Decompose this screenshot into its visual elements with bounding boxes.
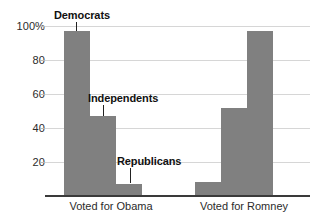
leader-line-republicans [130,168,131,183]
bar-romney-democrats [195,182,221,196]
leader-line-democrats [76,22,77,31]
leader-line-independents [103,105,104,116]
x-axis-baseline [45,195,310,197]
annotation-independents: Independents [88,92,158,104]
bar-chart: 100% 80 60 40 20 Voted for Obama Voted f… [0,0,314,214]
bar-obama-democrats [64,31,90,196]
x-axis-label-romney: Voted for Romney [190,200,298,213]
annotation-democrats: Democrats [54,9,110,21]
y-tick-label-60: 60 [3,89,45,100]
bar-obama-independents [90,116,116,196]
y-tick-label-20: 20 [3,157,45,168]
y-axis: 100% 80 60 40 20 [0,0,45,214]
annotation-republicans: Republicans [117,155,181,167]
y-tick-label-80: 80 [3,55,45,66]
bar-romney-republicans [247,31,273,196]
x-axis-label-obama: Voted for Obama [57,200,165,213]
y-tick-label-100: 100% [3,21,45,32]
y-tick-label-40: 40 [3,123,45,134]
bars-layer [45,26,310,196]
bar-romney-independents [221,108,247,196]
